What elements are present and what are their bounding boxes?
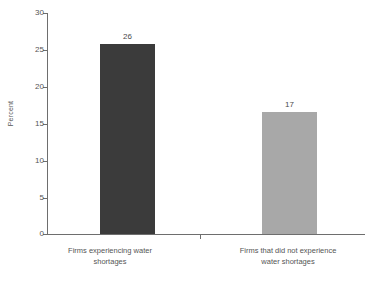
x-axis-line xyxy=(47,234,365,235)
category-label-line-2: water shortages xyxy=(213,256,363,267)
y-tick-label: 10 xyxy=(35,156,44,165)
y-tick-label: 25 xyxy=(35,45,44,54)
category-label-line-1: Firms that did not experience xyxy=(213,245,363,256)
bar-firms-that-did-not-experience-water-shortages[interactable]: 17 xyxy=(262,112,317,234)
x-axis-category-label-0: Firms experiencing water shortages xyxy=(45,245,175,267)
y-tick-label: 20 xyxy=(35,82,44,91)
bar-firms-experiencing-water-shortages[interactable]: 26 xyxy=(100,44,155,234)
y-axis-title: Percent xyxy=(7,84,14,144)
bar-value-label: 17 xyxy=(285,100,294,109)
x-axis-category-label-1: Firms that did not experience water shor… xyxy=(213,245,363,267)
y-axis-line xyxy=(47,13,48,235)
y-tick-label: 30 xyxy=(35,8,44,17)
y-tick-label: 15 xyxy=(35,119,44,128)
y-tick-label: 5 xyxy=(40,193,44,202)
category-label-line-2: shortages xyxy=(45,256,175,267)
bar-value-label: 26 xyxy=(123,32,132,41)
x-axis-separator-tick xyxy=(200,235,201,239)
plot-area: 30 25 20 15 10 5 0 26 xyxy=(47,13,365,235)
bar-chart: Percent 30 25 20 15 10 5 0 xyxy=(0,0,375,282)
category-label-line-1: Firms experiencing water xyxy=(45,245,175,256)
y-tick-label: 0 xyxy=(40,229,44,238)
